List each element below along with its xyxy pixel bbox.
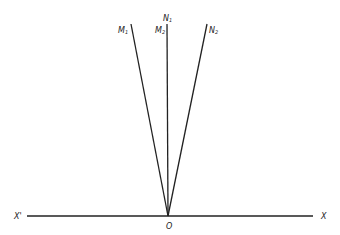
label-m1: M1 (118, 26, 128, 35)
label-n1: N1 (163, 14, 172, 23)
label-m2: M2 (155, 26, 165, 35)
label-x: X (320, 212, 327, 221)
ray-m1 (131, 24, 168, 216)
geometry-diagram: X' X O M1 N1 M2 N2 (0, 0, 340, 235)
label-origin: O (166, 222, 172, 231)
label-n2: N2 (209, 26, 218, 35)
ray-n2 (168, 24, 207, 216)
label-x-prime: X' (13, 212, 22, 221)
ray-n1-m2 (167, 24, 168, 216)
